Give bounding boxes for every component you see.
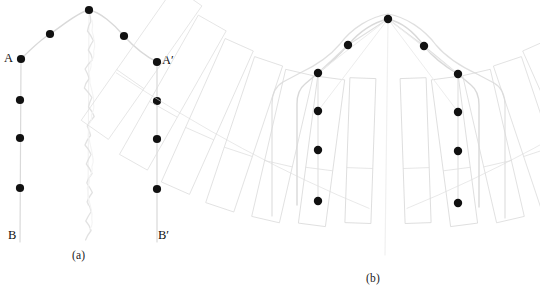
landmark-point-q-left-sh [344, 41, 352, 49]
label-A: A [4, 51, 13, 66]
landmark-point-q-R3 [454, 199, 462, 207]
landmark-point-p-top [85, 6, 93, 14]
left-outer-silhouette [272, 14, 388, 216]
label-B: B [8, 228, 16, 243]
landmark-point-p-L2 [16, 134, 24, 142]
right-outer-silhouette [388, 14, 505, 218]
caption-panel-b: (b) [366, 272, 380, 284]
landmark-point-q-L1 [314, 107, 322, 115]
pattern-strip-divider [347, 168, 373, 169]
landmark-point-p-left-sh [46, 30, 54, 38]
pattern-strip-divider [443, 167, 470, 171]
pattern-strip [463, 69, 525, 223]
landmark-point-q-apex [384, 15, 392, 23]
garment-body-outline [272, 14, 505, 255]
landmark-point-p-Ap [153, 58, 161, 66]
pattern-strip-divider [484, 161, 512, 167]
pattern-strip [523, 39, 540, 195]
caption-panel-a: (a) [72, 249, 85, 261]
landmark-point-p-R3 [153, 185, 161, 193]
center-front-split [385, 21, 388, 255]
pattern-strip [400, 78, 431, 224]
landmark-point-q-R2 [454, 147, 462, 155]
pattern-strip-divider [403, 168, 429, 169]
landmark-point-q-R0 [454, 70, 462, 78]
landmark-point-p-R2 [153, 135, 161, 143]
right-pattern-strips [400, 0, 540, 227]
landmark-point-p-L1 [16, 96, 24, 104]
pattern-strip-divider [265, 161, 293, 167]
pattern-strip-divider [524, 147, 540, 156]
center-guide-line [88, 12, 89, 205]
pattern-strip-divider [306, 167, 333, 171]
pattern-strip [252, 69, 314, 223]
pattern-strip [345, 78, 376, 224]
landmark-point-q-right-sh [420, 42, 428, 50]
landmark-point-q-L0 [314, 69, 322, 77]
landmark-point-q-L3 [314, 197, 322, 205]
pattern-strip [493, 57, 540, 212]
landmark-point-q-L2 [314, 146, 322, 154]
landmark-point-p-A [17, 55, 25, 63]
landmark-point-p-right-sh [120, 32, 128, 40]
label-B-prime: B′ [158, 228, 169, 243]
left-side-seam [20, 59, 21, 242]
panel-b-svg [230, 0, 540, 303]
landmark-point-q-R1 [454, 108, 462, 116]
panel-b-pattern-fan [230, 0, 540, 303]
figure-container: A A′ B B′ (a) (b) [0, 0, 540, 303]
landmark-point-p-L3 [16, 184, 24, 192]
